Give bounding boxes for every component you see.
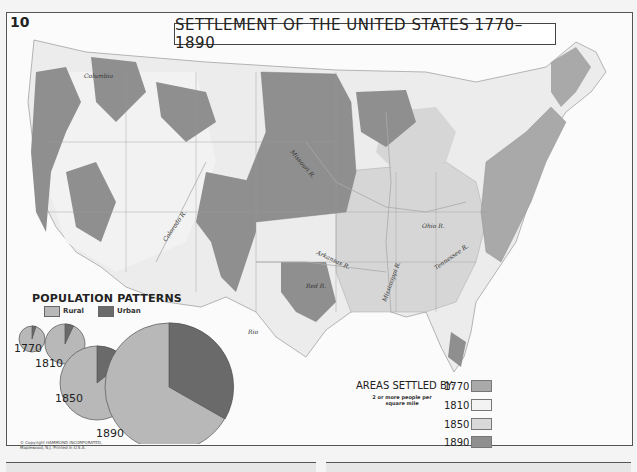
rural-swatch bbox=[44, 306, 60, 317]
pie-label-1810: 1810 bbox=[35, 357, 63, 370]
swatch-1850 bbox=[471, 418, 492, 430]
area-legend-1850: 1850 bbox=[444, 418, 492, 430]
map-title: SETTLEMENT OF THE UNITED STATES 1770–189… bbox=[175, 16, 555, 52]
copyright-note: © Copyright HAMMOND INCORPORATED, Maplew… bbox=[20, 440, 120, 450]
river-label-ohio: Ohio R. bbox=[422, 222, 445, 229]
river-label-rio-grande: Rio bbox=[247, 328, 258, 335]
swatch-1810 bbox=[471, 399, 492, 411]
legend-urban: Urban bbox=[98, 306, 141, 317]
urban-swatch bbox=[98, 306, 114, 317]
areas-settled-title: AREAS SETTLED BY: bbox=[356, 380, 454, 391]
population-patterns-title: POPULATION PATTERNS bbox=[32, 292, 182, 305]
next-page-strip-right bbox=[326, 462, 631, 472]
swatch-1770 bbox=[471, 380, 492, 392]
us-settlement-map: Columbia Missouri R. Colorado R. Arkansa… bbox=[6, 12, 631, 444]
pie-label-1770: 1770 bbox=[14, 342, 42, 355]
river-label-red: Red R. bbox=[305, 282, 326, 289]
area-legend-1810: 1810 bbox=[444, 399, 492, 411]
population-pies bbox=[19, 323, 234, 444]
area-legend-1770: 1770 bbox=[444, 380, 492, 392]
areas-settled-subtitle: 2 or more people per square mile bbox=[372, 394, 432, 406]
legend-rural: Rural bbox=[44, 306, 84, 317]
title-box: SETTLEMENT OF THE UNITED STATES 1770–189… bbox=[174, 23, 556, 45]
swatch-1890 bbox=[471, 436, 492, 448]
page-number: 10 bbox=[10, 14, 29, 30]
pie-label-1890: 1890 bbox=[96, 427, 124, 440]
pie-label-1850: 1850 bbox=[55, 392, 83, 405]
river-label-columbia: Columbia bbox=[84, 72, 113, 79]
next-page-strip-left bbox=[6, 462, 316, 472]
population-legend: Rural Urban bbox=[44, 306, 141, 317]
area-legend-1890: 1890 bbox=[444, 436, 492, 448]
